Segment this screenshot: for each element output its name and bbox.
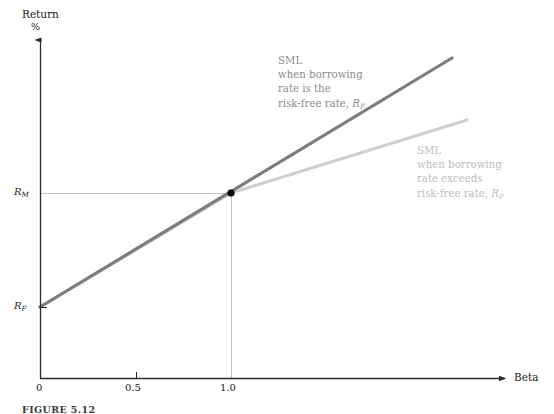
annotation-sml-high-borrowing: SML when borrowing rate exceeds risk-fre… [417, 144, 504, 203]
annotation-steep-line3: rate is the [278, 82, 365, 96]
annotation-steep-line4-symbol: RF [352, 98, 365, 109]
x-tick-label-0.5: 0.5 [125, 382, 141, 393]
security-market-line-chart: Return % Beta RM RF 0 0.5 1.0 SML when b… [0, 0, 554, 414]
annotation-steep-line2: when borrowing [278, 68, 365, 82]
annotation-steep-line1: SML [278, 54, 365, 68]
figure-caption: FIGURE 5.12 [22, 404, 96, 414]
y-axis-unit-label: % [31, 21, 40, 33]
y-tick-rf-subscript: F [22, 304, 27, 313]
annotation-flat-line4-prefix: risk-free rate, [417, 188, 491, 199]
x-tick-label-1.0: 1.0 [220, 382, 236, 393]
y-axis-title: Return [22, 8, 59, 21]
annotation-flat-line2: when borrowing [417, 158, 504, 172]
sml-line-high-borrowing-rate [40, 120, 467, 307]
market-portfolio-point [227, 189, 234, 196]
sml-line-riskfree-borrowing-rate [40, 58, 452, 307]
x-axis-title: Beta [514, 371, 538, 384]
y-tick-rf-symbol: R [14, 300, 22, 311]
y-tick-label-rm: RM [14, 186, 29, 199]
annotation-steep-line4: risk-free rate, RF [278, 97, 365, 114]
annotation-steep-line4-subscript: F [360, 101, 365, 110]
annotation-sml-riskfree-borrowing: SML when borrowing rate is the risk-free… [278, 54, 365, 113]
annotation-flat-line4: risk-free rate, RF [417, 187, 504, 204]
annotation-flat-line1: SML [417, 144, 504, 158]
annotation-flat-line4-symbol: RF [491, 188, 504, 199]
annotation-flat-line4-subscript: F [499, 191, 504, 200]
annotation-steep-line4-prefix: risk-free rate, [278, 98, 352, 109]
y-tick-rm-subscript: M [22, 190, 29, 199]
chart-canvas [0, 0, 554, 414]
y-tick-label-rf: RF [14, 300, 26, 313]
y-tick-rm-symbol: R [14, 186, 22, 197]
annotation-flat-line3: rate exceeds [417, 172, 504, 186]
x-tick-label-0: 0 [36, 382, 42, 393]
